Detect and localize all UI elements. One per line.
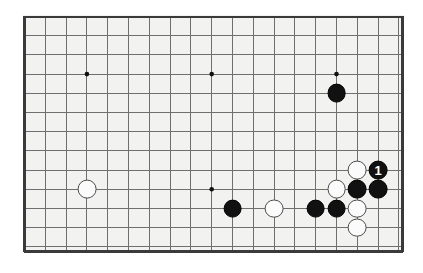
stone-black[interactable] [223, 199, 242, 218]
stone-black[interactable] [348, 180, 367, 199]
stone-white[interactable] [327, 180, 346, 199]
stone-white[interactable] [265, 199, 284, 218]
goban[interactable]: 1 [23, 15, 404, 253]
stone-black[interactable] [306, 199, 325, 218]
stone-black[interactable] [369, 180, 388, 199]
star-point [209, 72, 214, 77]
go-board-figure: 1 [0, 0, 423, 273]
stone-white[interactable] [348, 218, 367, 237]
star-point [209, 187, 214, 192]
star-point [334, 72, 339, 77]
stone-black[interactable]: 1 [369, 161, 388, 180]
stone-black[interactable] [327, 199, 346, 218]
stone-white[interactable] [348, 199, 367, 218]
board-grid [23, 15, 404, 253]
stone-black[interactable] [327, 84, 346, 103]
stone-move-number: 1 [370, 162, 387, 179]
stone-white[interactable] [77, 180, 96, 199]
stone-white[interactable] [348, 161, 367, 180]
star-point [85, 72, 90, 77]
